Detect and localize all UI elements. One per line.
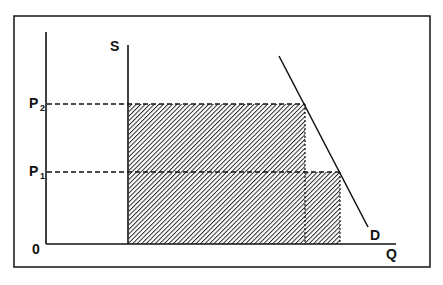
quantity-axis-label: Q (386, 246, 397, 262)
p1-subscript: 1 (40, 171, 45, 181)
p1-label: P (29, 163, 38, 179)
p2-label: P (29, 95, 38, 111)
demand-label: D (370, 227, 380, 243)
supply-label: S (110, 38, 119, 54)
origin-label: 0 (32, 241, 40, 257)
revenue-area-p2 (129, 104, 305, 244)
revenue-area-p1-extension (305, 172, 340, 244)
supply-demand-diagram: S D Q 0 P 2 P 1 (0, 0, 443, 285)
p2-subscript: 2 (40, 103, 45, 113)
